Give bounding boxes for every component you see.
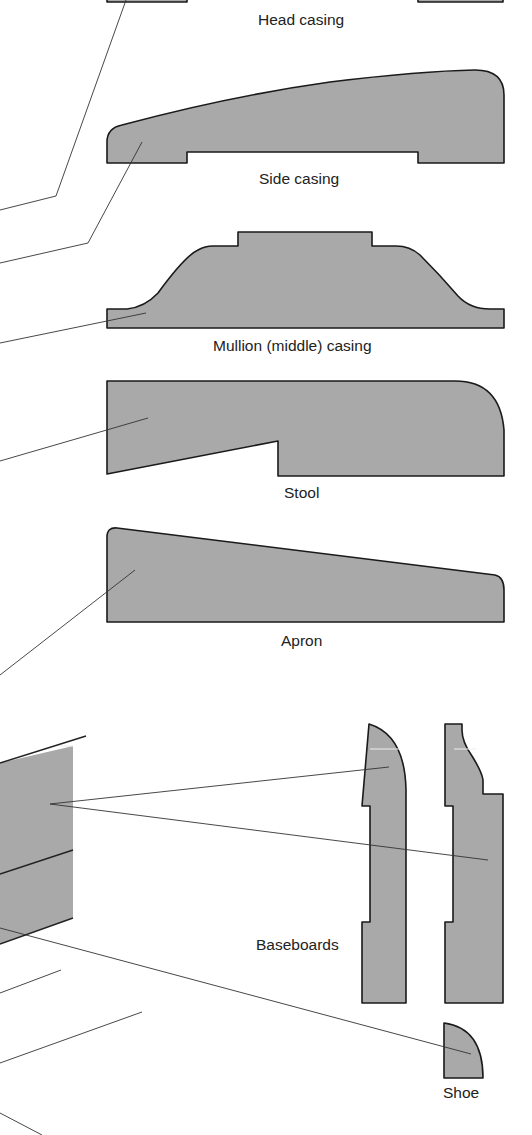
stool-profile bbox=[107, 381, 504, 476]
mullion-casing-profile bbox=[107, 232, 504, 328]
baseboards-label: Baseboards bbox=[256, 937, 339, 953]
mullion-casing-label: Mullion (middle) casing bbox=[213, 338, 372, 354]
head-casing-label: Head casing bbox=[258, 12, 344, 28]
shoe-label: Shoe bbox=[443, 1085, 479, 1101]
baseboard-2-profile bbox=[445, 724, 503, 1003]
head-casing-profile bbox=[107, 0, 503, 2]
shoe-profile bbox=[444, 1023, 483, 1078]
baseboard-1-profile bbox=[362, 724, 406, 1003]
wall-section bbox=[0, 736, 86, 944]
side-casing-profile bbox=[107, 70, 504, 163]
apron-profile bbox=[107, 528, 504, 622]
stool-label: Stool bbox=[284, 485, 319, 501]
side-casing-label: Side casing bbox=[259, 171, 339, 187]
apron-label: Apron bbox=[281, 633, 322, 649]
